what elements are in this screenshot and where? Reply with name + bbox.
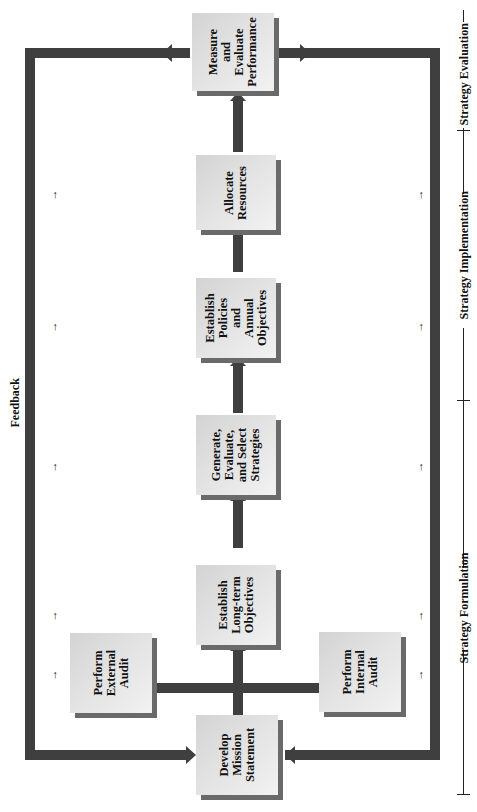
- phase-timeline-formulation-line: [463, 650, 464, 794]
- arrowhead-left-icon: [285, 746, 295, 764]
- box-generate-evaluate-select-strategies: Generate, Evaluate, and Select Strategie…: [196, 415, 276, 495]
- box-label: Establish Policies and Annual Objectives: [204, 290, 269, 346]
- phase-label-strategy-formulation: Strategy Formulation: [457, 556, 472, 664]
- connector-audits-crossbar: [155, 683, 320, 693]
- box-measure-evaluate-performance: Measure and Evaluate Performance: [192, 13, 274, 91]
- connector-allocate-to-measure: [233, 100, 243, 152]
- small-arrow-icon: →: [48, 190, 58, 201]
- connector-strategies-to-policies: [233, 365, 243, 413]
- arrowhead-right-icon: [186, 746, 196, 764]
- box-perform-internal-audit: Perform Internal Audit: [319, 632, 401, 712]
- arrowhead-right-icon: [300, 44, 310, 62]
- small-arrow-icon: →: [48, 462, 58, 473]
- small-arrow-icon: →: [48, 611, 58, 622]
- box-allocate-resources: Allocate Resources: [196, 155, 276, 230]
- phase-end-tick: [457, 794, 470, 795]
- arrowhead-up-icon: [230, 92, 246, 101]
- small-arrow-icon: →: [48, 670, 58, 681]
- feedback-loop-bottom-right: [285, 750, 440, 760]
- box-label: Perform External Audit: [92, 650, 131, 697]
- box-label: Allocate Resources: [223, 166, 249, 220]
- box-perform-external-audit: Perform External Audit: [70, 633, 152, 713]
- feedback-loop-left-edge: [25, 48, 35, 760]
- phase-timeline-formulation-line: [463, 400, 464, 568]
- feedback-loop-right-edge: [430, 48, 440, 760]
- feedback-loop-bottom-left: [25, 750, 190, 760]
- small-arrow-icon: →: [414, 322, 424, 333]
- box-label: Establish Long-term Objectives: [217, 576, 256, 634]
- phase-divider-tick: [457, 130, 470, 131]
- box-develop-mission-statement: Develop Mission Statement: [196, 715, 278, 795]
- arrowhead-up-icon: [230, 357, 246, 366]
- box-label: Develop Mission Statement: [218, 728, 257, 782]
- box-establish-policies-annual-objectives: Establish Policies and Annual Objectives: [196, 278, 276, 358]
- small-arrow-icon: →: [414, 462, 424, 473]
- small-arrow-icon: →: [414, 611, 424, 622]
- arrowhead-left-icon: [162, 44, 172, 62]
- box-label: Perform Internal Audit: [341, 649, 380, 694]
- small-arrow-icon: →: [414, 190, 424, 201]
- phase-timeline-evaluation-line: [463, 10, 464, 22]
- feedback-label: Feedback: [8, 382, 23, 428]
- connector-objectives-to-strategies: [233, 500, 243, 548]
- box-label: Generate, Evaluate, and Select Strategie…: [210, 428, 262, 483]
- small-arrow-icon: →: [414, 670, 424, 681]
- small-arrow-icon: →: [48, 322, 58, 333]
- strategic-management-model-diagram: Develop Mission Statement Perform Extern…: [0, 0, 477, 812]
- phase-label-strategy-evaluation: Strategy Evaluation: [457, 26, 472, 126]
- box-establish-long-term-objectives: Establish Long-term Objectives: [196, 565, 276, 645]
- phase-label-strategy-implementation: Strategy Implementation: [457, 200, 472, 320]
- phase-timeline-implementation-line: [463, 328, 464, 402]
- box-label: Measure and Evaluate Performance: [207, 17, 259, 86]
- phase-timeline-evaluation-line: [463, 128, 464, 194]
- connector-policies-to-allocate: [233, 232, 243, 272]
